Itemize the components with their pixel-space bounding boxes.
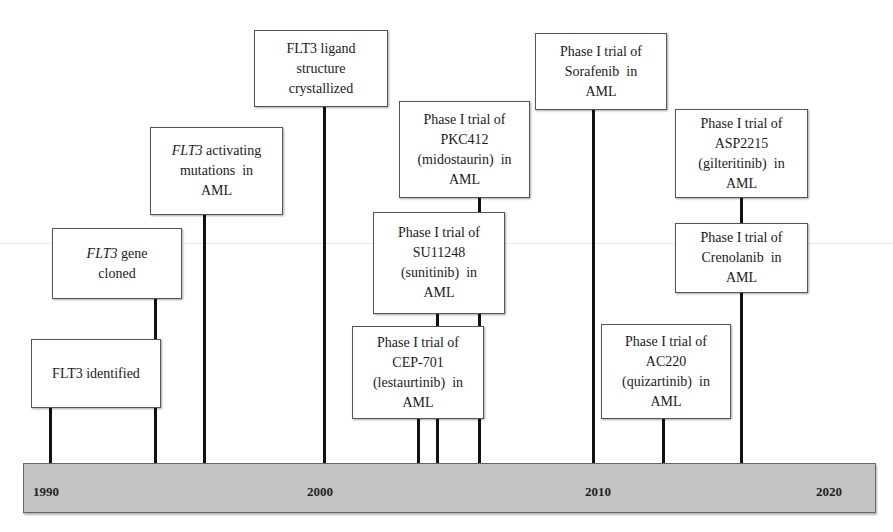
- event-su11248: Phase I trial of SU11248 (sunitinib) in …: [373, 212, 505, 314]
- year-label-2000: 2000: [307, 484, 333, 500]
- event-label-line: AML: [698, 174, 784, 194]
- event-flt3-activating-mutations: FLT3 activating mutations in AML: [150, 127, 283, 215]
- gene-name-italic: FLT3: [172, 143, 203, 158]
- event-crenolanib: Phase I trial of Crenolanib in AML: [675, 223, 808, 293]
- event-label-line: Phase I trial of: [373, 333, 463, 353]
- event-label-line: (midostaurin) in: [417, 150, 511, 170]
- event-label-line: structure: [286, 59, 355, 79]
- connector-cep701: [417, 418, 420, 464]
- year-label-2020: 2020: [816, 484, 842, 500]
- event-label-line: Phase I trial of: [622, 332, 710, 352]
- event-label-line: PKC412: [417, 130, 511, 150]
- event-label-line: AML: [560, 82, 642, 102]
- event-label-line: mutations in: [172, 161, 262, 181]
- gene-name-italic: FLT3: [87, 246, 118, 261]
- event-flt3-identified: FLT3 identified: [31, 339, 161, 408]
- connector-flt3-identified: [49, 407, 52, 464]
- event-label-line: AML: [398, 283, 480, 303]
- event-label-line: FLT3 ligand: [286, 39, 355, 59]
- event-label-line: Phase I trial of: [700, 228, 782, 248]
- event-label-line: CEP-701: [373, 353, 463, 373]
- event-label-line: AML: [700, 268, 782, 288]
- event-label-line: (quizartinib) in: [622, 372, 710, 392]
- event-label-line: Phase I trial of: [560, 42, 642, 62]
- event-label-line: AML: [417, 170, 511, 190]
- event-label-line: Phase I trial of: [698, 114, 784, 134]
- event-label-line: crystallized: [286, 79, 355, 99]
- timeline-bar: [23, 463, 876, 513]
- event-flt3-gene-cloned: FLT3 gene cloned: [52, 228, 182, 299]
- event-ac220: Phase I trial of AC220 (quizartinib) in …: [601, 324, 731, 419]
- event-pkc412: Phase I trial of PKC412 (midostaurin) in…: [399, 101, 530, 198]
- event-label-line: (lestaurtinib) in: [373, 373, 463, 393]
- event-label-line: gene: [117, 246, 147, 261]
- event-label-line: AML: [373, 393, 463, 413]
- connector-flt3-ligand: [323, 106, 326, 464]
- event-label-line: activating: [203, 143, 262, 158]
- event-label-line: (gilteritinib) in: [698, 154, 784, 174]
- event-label-line: Sorafenib in: [560, 62, 642, 82]
- year-label-2010: 2010: [585, 484, 611, 500]
- event-label-line: SU11248: [398, 243, 480, 263]
- event-label-line: cloned: [87, 264, 148, 284]
- event-flt3-ligand: FLT3 ligand structure crystallized: [254, 30, 388, 107]
- event-sorafenib: Phase I trial of Sorafenib in AML: [535, 33, 667, 110]
- connector-sorafenib: [592, 109, 595, 464]
- event-label-line: (sunitinib) in: [398, 263, 480, 283]
- event-label-line: AML: [172, 181, 262, 201]
- event-label-line: AML: [622, 392, 710, 412]
- event-label-line: AC220: [622, 352, 710, 372]
- event-asp2215: Phase I trial of ASP2215 (gilteritinib) …: [675, 109, 808, 198]
- connector-flt3-activating: [203, 214, 206, 464]
- event-label-line: Crenolanib in: [700, 248, 782, 268]
- event-label-line: ASP2215: [698, 134, 784, 154]
- event-label: FLT3 identified: [52, 364, 140, 384]
- year-label-1990: 1990: [33, 484, 59, 500]
- connector-ac220: [662, 418, 665, 464]
- event-label-line: Phase I trial of: [398, 223, 480, 243]
- event-label-line: Phase I trial of: [417, 110, 511, 130]
- event-cep701: Phase I trial of CEP-701 (lestaurtinib) …: [352, 326, 484, 419]
